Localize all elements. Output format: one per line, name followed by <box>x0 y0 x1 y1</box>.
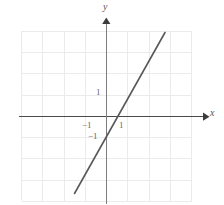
x-axis-label: x <box>210 108 214 118</box>
y-tick-label-one: 1 <box>96 88 101 97</box>
coordinate-plane-svg <box>0 0 224 205</box>
y-tick-label-negative-one: −1 <box>88 132 98 141</box>
x-tick-label-negative-one: −1 <box>82 121 92 130</box>
graph-figure: y x −1 1 1 −1 <box>0 0 224 205</box>
y-axis-arrow-icon <box>102 18 110 25</box>
plotted-line <box>75 33 166 194</box>
y-axis-label: y <box>103 2 107 12</box>
x-axis-arrow-icon <box>203 113 210 121</box>
x-axis <box>19 113 210 121</box>
x-tick-label-one: 1 <box>119 121 124 130</box>
y-axis <box>102 18 110 205</box>
